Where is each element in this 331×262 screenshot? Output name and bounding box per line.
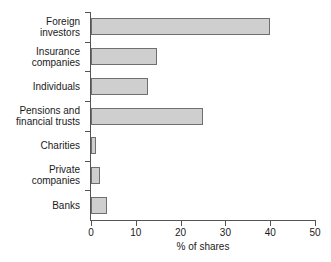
- y-axis-label-group: Foreign investors Insurance companies In…: [0, 12, 84, 220]
- y-axis-line: [90, 12, 91, 221]
- y-axis-tick: [85, 161, 90, 162]
- x-axis-tick: [225, 221, 226, 226]
- bar: [91, 137, 96, 154]
- bar: [91, 18, 270, 35]
- y-axis-tick: [85, 190, 90, 191]
- y-axis-tick: [85, 131, 90, 132]
- category-label-private-companies: Private companies: [0, 164, 80, 186]
- y-axis-tick: [85, 71, 90, 72]
- y-axis-tick: [85, 12, 90, 13]
- bar: [91, 167, 100, 184]
- category-label-foreign-investors: Foreign investors: [0, 16, 80, 38]
- plot-area: [91, 12, 315, 220]
- x-axis-tick-label: 30: [213, 227, 237, 239]
- x-axis-tick-label: 10: [124, 227, 148, 239]
- category-label-individuals: Individuals: [0, 81, 80, 92]
- horizontal-bar-chart: Foreign investors Insurance companies In…: [0, 0, 331, 262]
- category-label-charities: Charities: [0, 140, 80, 151]
- x-axis-tick: [315, 221, 316, 226]
- x-axis-title: % of shares: [91, 241, 315, 253]
- y-axis-tick: [85, 101, 90, 102]
- x-axis-tick-label: 40: [258, 227, 282, 239]
- x-axis-tick: [181, 221, 182, 226]
- bar: [91, 78, 148, 95]
- category-label-insurance-companies: Insurance companies: [0, 46, 80, 68]
- y-axis-tick: [85, 42, 90, 43]
- x-axis-tick-label: 50: [303, 227, 327, 239]
- bar: [91, 48, 157, 65]
- x-axis-tick-label: 0: [79, 227, 103, 239]
- x-axis-line: [90, 220, 316, 221]
- x-axis-tick: [91, 221, 92, 226]
- x-axis-tick: [136, 221, 137, 226]
- bar: [91, 197, 107, 214]
- category-label-banks: Banks: [0, 200, 80, 211]
- x-axis-tick-label: 20: [169, 227, 193, 239]
- x-axis-tick: [270, 221, 271, 226]
- bar: [91, 108, 203, 125]
- category-label-pensions-and-financial-trusts: Pensions and financial trusts: [0, 105, 80, 127]
